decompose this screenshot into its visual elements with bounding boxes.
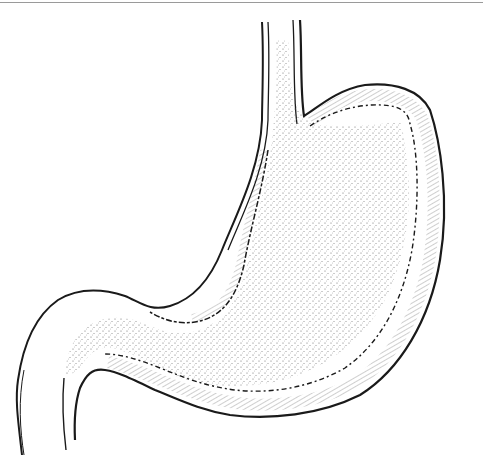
outer-wall: [17, 22, 263, 455]
stomach-illustration: [0, 0, 483, 475]
pyloric-inner: [63, 378, 66, 450]
